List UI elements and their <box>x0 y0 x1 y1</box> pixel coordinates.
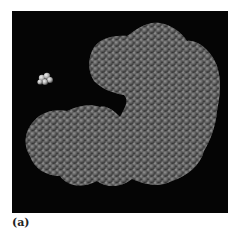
protein-molecule <box>26 23 220 186</box>
molecule-render-panel <box>12 11 228 213</box>
ligand-molecule <box>37 73 53 85</box>
protein-space-filling-model <box>12 11 228 213</box>
panel-label: (a) <box>12 216 30 229</box>
